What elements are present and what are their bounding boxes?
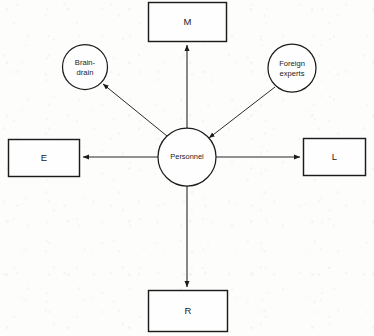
node-foreign-experts-shape: [268, 44, 316, 92]
node-personnel[interactable]: Personnel: [158, 128, 216, 186]
node-l[interactable]: L: [304, 139, 366, 176]
edge-foreign-experts-to-personnel: [209, 87, 275, 138]
node-foreign-experts-label-line2: experts: [280, 69, 305, 78]
node-l-label: L: [332, 151, 337, 162]
node-personnel-label: Personnel: [170, 152, 204, 161]
node-r[interactable]: R: [149, 291, 228, 332]
node-e-label: E: [41, 152, 47, 163]
node-r-label: R: [185, 305, 192, 316]
edge-personnel-to-brain-drain: [103, 84, 167, 136]
node-m[interactable]: M: [149, 3, 227, 42]
node-m-label: M: [184, 16, 192, 27]
node-e[interactable]: E: [9, 140, 80, 177]
node-brain-drain-shape: [63, 45, 108, 90]
node-foreign-experts[interactable]: Foreign experts: [268, 44, 316, 92]
diagram-canvas: M E L R Brain- drain Foreign experts: [0, 0, 374, 336]
node-foreign-experts-label-line1: Foreign: [279, 59, 305, 68]
diagram-svg: M E L R Brain- drain Foreign experts: [0, 0, 374, 336]
node-brain-drain-label-line1: Brain-: [75, 58, 96, 67]
node-brain-drain-label-line2: drain: [77, 68, 94, 77]
node-brain-drain[interactable]: Brain- drain: [63, 45, 108, 90]
